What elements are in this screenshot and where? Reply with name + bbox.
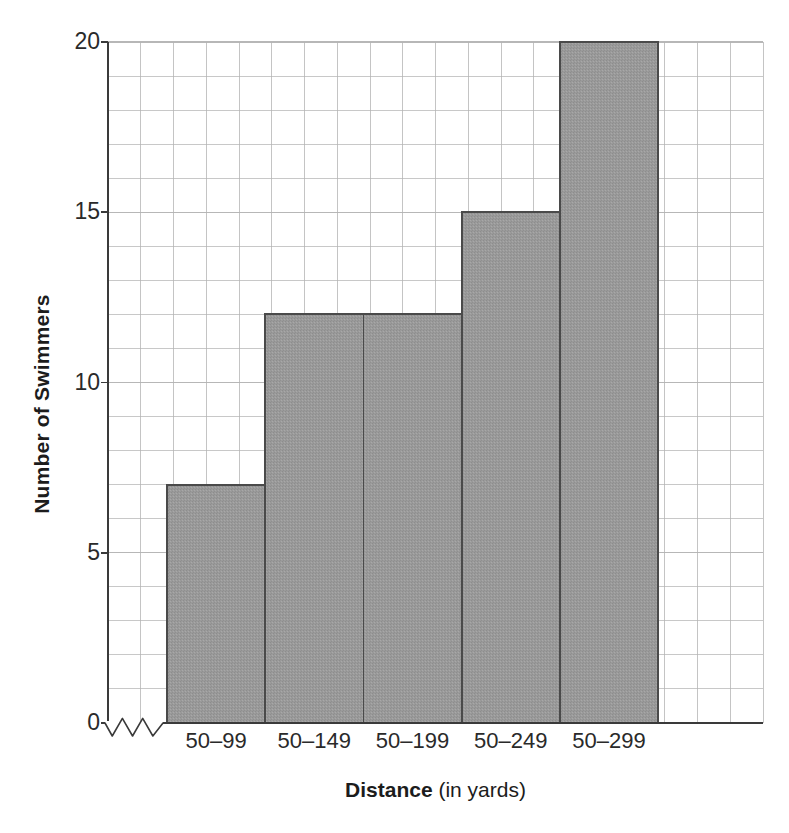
y-axis-tick-label: 0 xyxy=(56,711,100,734)
bar xyxy=(167,485,265,723)
x-axis-title-bold: Distance xyxy=(345,778,433,801)
plot-area xyxy=(108,42,763,723)
bar xyxy=(462,212,560,723)
bar xyxy=(363,314,461,723)
x-axis-tick-label: 50–299 xyxy=(529,729,689,753)
bar xyxy=(265,314,363,723)
y-axis-tick-label: 5 xyxy=(56,541,100,564)
y-axis-tick-label: 20 xyxy=(56,30,100,53)
bars-group xyxy=(108,42,763,723)
y-axis-tick-label: 10 xyxy=(56,371,100,394)
histogram-figure: Number of Swimmers 05101520 50–9950–1495… xyxy=(0,0,789,833)
bar xyxy=(560,42,658,723)
y-axis-tick-label: 15 xyxy=(56,200,100,223)
y-axis-tick-labels: 05101520 xyxy=(52,0,100,833)
x-axis-title-units: (in yards) xyxy=(438,778,526,801)
x-axis-title: Distance (in yards) xyxy=(108,778,763,802)
x-axis-tick-labels: 50–9950–14950–19950–24950–299 xyxy=(108,729,763,769)
y-axis-title: Number of Swimmers xyxy=(30,244,54,564)
